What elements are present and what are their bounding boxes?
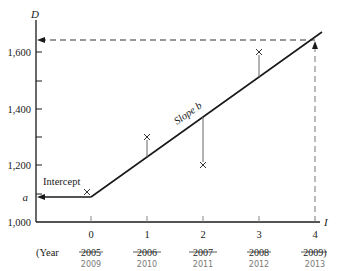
year-handwritten: 2011 xyxy=(193,260,213,269)
year-printed: 2009) xyxy=(303,247,326,259)
y-tick-label: 1,400 xyxy=(7,104,31,115)
regression-chart: D I 1,600 1,400 1,200 1,000 a 0 1 2 3 4 … xyxy=(0,0,338,271)
year-printed: 2005 xyxy=(81,247,101,258)
x-marker-icon xyxy=(84,189,90,195)
x-tick-label: 1 xyxy=(144,229,149,240)
y-ticks xyxy=(36,52,42,194)
year-handwritten: 2013 xyxy=(305,260,325,269)
y-tick-label: 1,000 xyxy=(7,217,31,228)
x-tick-label: 2 xyxy=(200,229,205,240)
year-printed: 2008 xyxy=(249,247,269,258)
y-tick-label: 1,600 xyxy=(7,47,31,58)
trend-line xyxy=(91,32,322,197)
arrowhead-up-icon xyxy=(312,41,318,49)
x-tick-label: 0 xyxy=(88,229,93,240)
arrowhead-left-icon xyxy=(37,194,45,200)
year-printed: 2006 xyxy=(137,247,157,258)
x-tick-label: 3 xyxy=(256,229,261,240)
year-handwritten: 2009 xyxy=(81,260,101,269)
x-axis-label: I xyxy=(323,216,329,228)
intercept-label: Intercept xyxy=(43,176,80,187)
intercept-symbol: a xyxy=(23,191,29,203)
y-axis-label: D xyxy=(30,8,39,20)
year-prefix: (Year xyxy=(36,247,59,259)
x-marker-icon xyxy=(200,162,206,168)
slope-label: Slope b xyxy=(172,100,204,127)
x-marker-icon xyxy=(256,49,262,55)
year-handwritten: 2010 xyxy=(137,260,157,269)
x-tick-label: 4 xyxy=(312,229,318,240)
data-points xyxy=(84,49,262,195)
x-marker-icon xyxy=(144,134,150,140)
year-printed: 2007 xyxy=(193,247,213,258)
year-handwritten: 2012 xyxy=(249,260,269,269)
x-ticks xyxy=(91,216,259,222)
y-tick-label: 1,200 xyxy=(7,160,31,171)
arrowhead-left-icon xyxy=(37,37,45,43)
